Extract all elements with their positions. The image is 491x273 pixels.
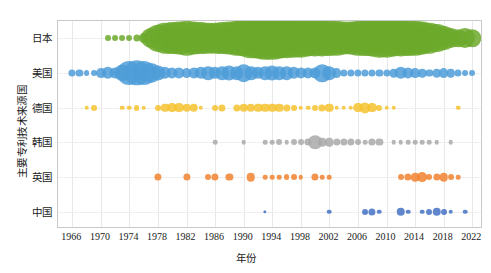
bubble-德国-2002 [325,103,334,112]
x-tick-2018: 2018 [433,231,453,242]
x-tick-1998: 1998 [290,231,310,242]
bubble-英国-1982 [183,173,190,180]
bubble-英国-2020 [456,175,461,180]
x-tick-1990: 1990 [233,231,253,242]
bubble-德国-1983 [189,103,198,112]
bubble-英国-1995 [277,175,282,180]
bubble-英国-2001 [320,175,325,180]
bubble-德国-2009 [376,105,382,111]
bubble-韩国-2012 [399,140,404,145]
bubble-美国-2022 [469,70,475,76]
bubble-德国-1999 [306,105,311,110]
bubble-德国-1998 [299,105,304,110]
bubble-德国-1968 [84,105,89,110]
bubble-德国-1975 [134,105,140,111]
bubble-美国-2009 [376,69,383,76]
bubble-中国-2017 [432,207,441,216]
bubble-英国-1997 [291,174,297,180]
bubble-英国-1994 [270,175,275,180]
bubble-中国-2015 [420,209,425,214]
bubble-德国-1996 [283,104,290,111]
x-gridline [472,21,473,227]
bubble-美国-2004 [340,69,347,76]
bubble-英国-1986 [212,173,219,180]
bubble-中国-2019 [449,209,454,214]
x-gridline [129,21,130,227]
bubble-韩国-2017 [434,140,439,145]
bubble-chart-figure: 主要专利技术来源国 日本美国德国韩国英国中国 19661970197419781… [0,0,491,273]
bubble-德国-1976 [141,105,146,110]
bubble-中国-2013 [406,209,411,214]
bubble-韩国-2014 [413,140,418,145]
plot-area [57,20,482,228]
x-gridline [101,21,102,227]
bubble-韩国-2005 [347,139,354,146]
bubble-韩国-2004 [340,139,347,146]
bubble-德国-2000 [312,105,318,111]
x-tick-1978: 1978 [147,231,167,242]
bubble-英国-2012 [398,174,404,180]
bubble-日本-1973 [119,35,125,41]
bubble-韩国-1986 [213,140,218,145]
bubble-德国-1997 [291,105,297,111]
bubble-德国-1984 [199,105,204,110]
bubble-韩国-2019 [449,140,454,145]
bubble-德国-2020 [456,105,461,110]
x-tick-2002: 2002 [318,231,338,242]
bubble-日本-1972 [112,35,118,41]
bubble-英国-1988 [226,173,233,180]
bubble-日本-2022 [464,30,482,48]
bubble-德国-2004 [341,105,346,110]
bubble-美国-1968 [84,70,90,76]
y-gridline [58,212,481,213]
bubble-英国-1996 [284,174,290,180]
bubble-英国-1998 [299,175,304,180]
bubble-中国-2018 [441,209,447,215]
bubble-韩国-1994 [270,140,275,145]
bubble-韩国-2009 [376,139,383,146]
x-gridline [72,21,73,227]
y-tick-中国: 中国 [32,203,52,218]
x-tick-1966: 1966 [61,231,81,242]
y-tick-美国: 美国 [32,65,52,80]
bubble-英国-1985 [205,174,211,180]
bubble-英国-1991 [247,173,256,182]
x-tick-1986: 1986 [204,231,224,242]
bubble-美国-2021 [462,70,468,76]
x-tick-1974: 1974 [118,231,138,242]
bubble-韩国-1990 [241,140,246,145]
y-tick-韩国: 韩国 [32,134,52,149]
bubble-韩国-1993 [263,140,268,145]
bubble-韩国-2015 [420,140,425,145]
x-tick-2022: 2022 [461,231,481,242]
bubble-日本-1974 [126,35,132,41]
bubble-韩国-2006 [355,139,361,145]
bubble-英国-2002 [327,175,332,180]
x-axis-tick-labels: 1966197019741978198219861990199419982002… [0,231,491,247]
bubble-韩国-2011 [391,140,396,145]
y-tick-英国: 英国 [32,169,52,184]
bubble-韩国-2016 [427,140,432,145]
bubble-韩国-2013 [406,140,411,145]
bubble-德国-2011 [391,105,396,110]
bubble-德国-1973 [120,105,125,110]
bubble-中国-2012 [397,207,406,216]
bubble-美国-2005 [347,69,354,76]
bubble-德国-1974 [127,105,132,110]
x-axis-title: 年份 [0,250,491,265]
bubble-英国-2016 [426,174,432,180]
bubble-韩国-1997 [291,139,297,145]
x-tick-1982: 1982 [176,231,196,242]
bubble-美国-2007 [362,69,369,76]
bubble-德国-1969 [91,105,97,111]
bubble-韩国-1998 [298,139,304,145]
x-tick-2006: 2006 [347,231,367,242]
bubble-日本-1971 [105,35,111,41]
bubble-中国-2009 [377,209,382,214]
bubble-韩国-2007 [363,140,368,145]
bubble-美国-2020 [454,69,461,76]
bubble-英国-2018 [439,173,448,182]
bubble-中国-2002 [327,209,332,214]
x-gridline [444,21,445,227]
x-tick-1994: 1994 [261,231,281,242]
